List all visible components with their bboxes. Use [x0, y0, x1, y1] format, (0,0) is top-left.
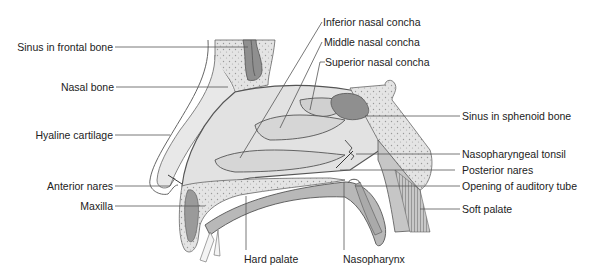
label-hyaline-cartilage: Hyaline cartilage — [35, 129, 113, 141]
label-sinus-frontal: Sinus in frontal bone — [17, 41, 113, 53]
label-inferior-concha: Inferior nasal concha — [323, 16, 420, 28]
label-sinus-sphenoid: Sinus in sphenoid bone — [462, 110, 571, 122]
label-nasopharynx: Nasopharynx — [343, 253, 405, 265]
label-superior-concha: Superior nasal concha — [325, 56, 429, 68]
label-maxilla: Maxilla — [80, 200, 113, 212]
label-nasal-bone: Nasal bone — [61, 81, 114, 93]
label-nasopharyngeal-tonsil: Nasopharyngeal tonsil — [462, 148, 566, 160]
label-auditory-tube: Opening of auditory tube — [462, 180, 577, 192]
label-soft-palate: Soft palate — [462, 203, 512, 215]
label-posterior-nares: Posterior nares — [462, 164, 533, 176]
nasal-anatomy-diagram: Sinus in frontal bone Nasal bone Hyaline… — [0, 0, 595, 274]
label-hard-palate: Hard palate — [244, 253, 298, 265]
label-anterior-nares: Anterior nares — [47, 180, 113, 192]
palate-region — [179, 178, 385, 262]
label-middle-concha: Middle nasal concha — [324, 36, 420, 48]
